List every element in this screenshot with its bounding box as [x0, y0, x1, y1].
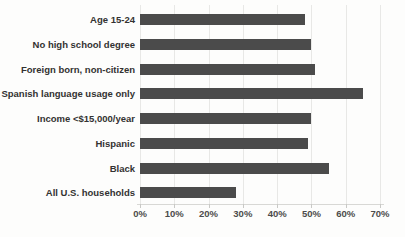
gridline	[380, 5, 381, 204]
category-label: Black	[0, 163, 135, 174]
gridline	[174, 5, 175, 204]
category-label: Income <$15,000/year	[0, 113, 135, 124]
x-axis-tick-label: 70%	[363, 208, 397, 219]
bar	[140, 64, 315, 75]
category-label: All U.S. households	[0, 187, 135, 198]
bar	[140, 138, 308, 149]
gridline	[346, 5, 347, 204]
x-axis-tick-label: 30%	[226, 208, 260, 219]
bar-chart: Age 15-24No high school degreeForeign bo…	[0, 0, 405, 237]
bar	[140, 163, 329, 174]
x-axis-tick-label: 20%	[192, 208, 226, 219]
category-label: Age 15-24	[0, 14, 135, 25]
bar	[140, 187, 236, 198]
x-axis-tick-label: 50%	[294, 208, 328, 219]
gridline	[311, 5, 312, 204]
bar	[140, 88, 363, 99]
category-label: Foreign born, non-citizen	[0, 64, 135, 75]
x-axis-tick-label: 0%	[123, 208, 157, 219]
bar	[140, 113, 311, 124]
gridline	[277, 5, 278, 204]
x-axis-tick-label: 40%	[260, 208, 294, 219]
x-axis-tick-label: 60%	[329, 208, 363, 219]
x-axis-tick-label: 10%	[157, 208, 191, 219]
category-label: Hispanic	[0, 138, 135, 149]
category-label: Spanish language usage only	[0, 88, 135, 99]
bar	[140, 14, 305, 25]
gridline	[140, 5, 141, 204]
bar	[140, 39, 311, 50]
gridline	[243, 5, 244, 204]
gridline	[209, 5, 210, 204]
category-label: No high school degree	[0, 39, 135, 50]
